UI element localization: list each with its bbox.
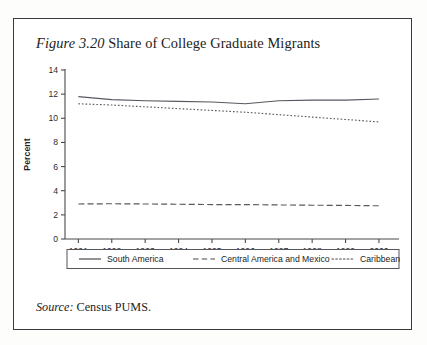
legend-label-caribbean: Caribbean (360, 254, 400, 264)
line-chart-svg: 02468101214 1991199219931994199519961997… (14, 63, 413, 285)
chart-legend: South AmericaCentral America and MexicoC… (67, 250, 400, 269)
y-tick-label: 12 (48, 89, 58, 99)
chart-plot: 02468101214 1991199219931994199519961997… (14, 63, 413, 285)
source-label: Source: (36, 300, 73, 314)
source-text: Census PUMS. (77, 300, 152, 314)
figure-title-text: Share of College Graduate Migrants (108, 35, 320, 51)
y-tick-label: 2 (53, 210, 58, 220)
series-line-south-america (78, 97, 379, 104)
figure-number: Figure 3.20 (36, 35, 105, 51)
page-background: Figure 3.20 Share of College Graduate Mi… (0, 0, 427, 345)
figure-frame: Figure 3.20 Share of College Graduate Mi… (13, 18, 412, 330)
figure-title: Figure 3.20 Share of College Graduate Mi… (36, 35, 320, 52)
y-tick-label: 10 (48, 113, 58, 123)
y-axis-title: Percent (22, 138, 32, 170)
legend-label-south-america: South America (107, 254, 164, 264)
y-tick-label: 0 (53, 234, 58, 244)
source-note: Source: Census PUMS. (36, 300, 151, 315)
y-tick-label: 6 (53, 162, 58, 172)
series-lines (78, 97, 379, 206)
y-axis: 02468101214 (48, 65, 65, 244)
y-tick-label: 8 (53, 137, 58, 147)
y-tick-label: 14 (48, 65, 58, 75)
y-axis-title-text: Percent (22, 138, 32, 170)
y-tick-label: 4 (53, 186, 58, 196)
legend-label-central-america-and-mexico: Central America and Mexico (221, 254, 330, 264)
series-line-central-america-and-mexico (78, 204, 379, 206)
series-line-caribbean (78, 104, 379, 122)
